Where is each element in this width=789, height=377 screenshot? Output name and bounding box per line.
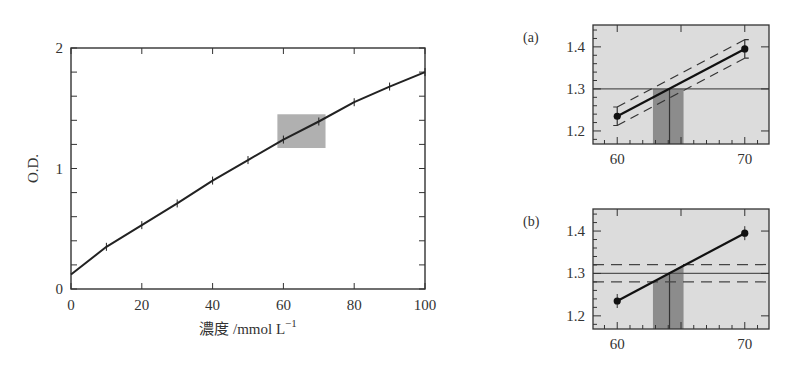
x-tick-label: 60: [610, 151, 625, 167]
panel-background: [593, 209, 769, 329]
x-tick-label: 60: [610, 336, 625, 352]
data-point: [614, 113, 621, 120]
y-tick-label: 1.4: [566, 39, 585, 55]
y-tick-label: 1.3: [566, 265, 585, 281]
x-tick-label: 20: [134, 297, 149, 313]
confidence-dashed-line: [617, 40, 745, 107]
x-tick-label: 70: [737, 336, 752, 352]
main-calibration-chart: 020406080100012濃度 /mmol L−1O.D.: [0, 0, 520, 377]
panel-frame: [593, 25, 769, 144]
y-tick-label: 1.4: [566, 223, 585, 239]
y-tick-label: 0: [56, 281, 64, 297]
x-axis-label: 濃度 /mmol L−1: [199, 317, 297, 337]
regression-line: [617, 233, 745, 301]
calibration-curve: [71, 72, 425, 274]
regression-line: [617, 49, 745, 116]
x-tick-label: 80: [347, 297, 362, 313]
confidence-dashed-line: [617, 58, 745, 125]
y-tick-label: 1.2: [566, 123, 585, 139]
bracket: [613, 107, 617, 126]
x-tick-label: 40: [205, 297, 220, 313]
panel-frame: [593, 209, 769, 329]
x-interval-band: [653, 265, 684, 329]
bracket: [745, 40, 749, 59]
y-tick-label: 2: [56, 40, 64, 56]
x-tick-label: 100: [414, 297, 437, 313]
y-tick-label: 1.2: [566, 308, 585, 324]
data-point: [614, 297, 621, 304]
plot-frame: [71, 48, 425, 289]
x-interval-band: [653, 89, 684, 144]
x-tick-label: 0: [67, 297, 75, 313]
y-axis-label: O.D.: [25, 154, 41, 183]
data-point: [741, 45, 748, 52]
data-point: [741, 230, 748, 237]
panel-label: (b): [523, 214, 540, 230]
x-tick-label: 70: [737, 151, 752, 167]
y-tick-label: 1.3: [566, 81, 585, 97]
panel-label: (a): [523, 30, 539, 46]
x-tick-label: 60: [276, 297, 291, 313]
panel-background: [593, 25, 769, 144]
y-tick-label: 1: [56, 161, 64, 177]
